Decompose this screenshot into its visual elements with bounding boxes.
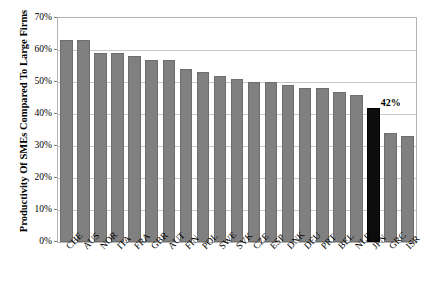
bar-nor[interactable] — [94, 18, 107, 242]
y-tick-label: 20% — [22, 172, 52, 182]
bar-jpn[interactable] — [367, 18, 380, 242]
x-axis-tick-labels: CHEAUSNORITAFRAGBRAUTFINPOLSWESVKCZEESPD… — [58, 244, 416, 287]
bar-rect — [384, 133, 397, 242]
y-tick-label: 50% — [22, 76, 52, 86]
bar-deu[interactable] — [299, 18, 312, 242]
bar-rect — [197, 72, 210, 242]
bar-rect — [94, 53, 107, 242]
bar-rect — [163, 60, 176, 242]
y-tick-label: 10% — [22, 204, 52, 214]
bar-rect — [128, 56, 141, 242]
bar-rect — [265, 82, 278, 242]
bar-esp[interactable] — [265, 18, 278, 242]
bar-rect — [145, 60, 158, 242]
bar-fra[interactable] — [128, 18, 141, 242]
bar-che[interactable] — [60, 18, 73, 242]
bar-isr[interactable] — [401, 18, 414, 242]
y-tick-label: 70% — [22, 12, 52, 22]
bar-ita[interactable] — [111, 18, 124, 242]
bar-nld[interactable] — [350, 18, 363, 242]
bar-gbr[interactable] — [145, 18, 158, 242]
bar-rect — [248, 82, 261, 242]
bars-layer: 42% — [58, 18, 416, 242]
bar-rect — [316, 88, 329, 242]
bar-cze[interactable] — [248, 18, 261, 242]
bar-rect — [231, 79, 244, 242]
bar-rect — [77, 40, 90, 242]
bar-rect — [401, 136, 414, 242]
bar-dnk[interactable] — [282, 18, 295, 242]
y-tick-label: 40% — [22, 108, 52, 118]
bar-pol[interactable] — [197, 18, 210, 242]
bar-prt[interactable] — [316, 18, 329, 242]
bar-bel[interactable] — [333, 18, 346, 242]
bar-chart: Productivity Of SMEs Compared To Large F… — [0, 0, 424, 287]
bar-rect — [350, 95, 363, 242]
bar-fin[interactable] — [180, 18, 193, 242]
bar-swe[interactable] — [214, 18, 227, 242]
bar-rect — [111, 53, 124, 242]
y-tick-label: 0% — [22, 236, 52, 246]
bar-rect — [60, 40, 73, 242]
bar-rect — [214, 76, 227, 242]
bar-aut[interactable] — [163, 18, 176, 242]
bar-rect — [180, 69, 193, 242]
bar-rect — [333, 92, 346, 242]
y-tick-label: 30% — [22, 140, 52, 150]
bar-rect — [282, 85, 295, 242]
y-tick-label: 60% — [22, 44, 52, 54]
bar-rect — [299, 88, 312, 242]
bar-grc[interactable] — [384, 18, 397, 242]
bar-svk[interactable] — [231, 18, 244, 242]
bar-aus[interactable] — [77, 18, 90, 242]
bar-rect — [367, 108, 380, 242]
